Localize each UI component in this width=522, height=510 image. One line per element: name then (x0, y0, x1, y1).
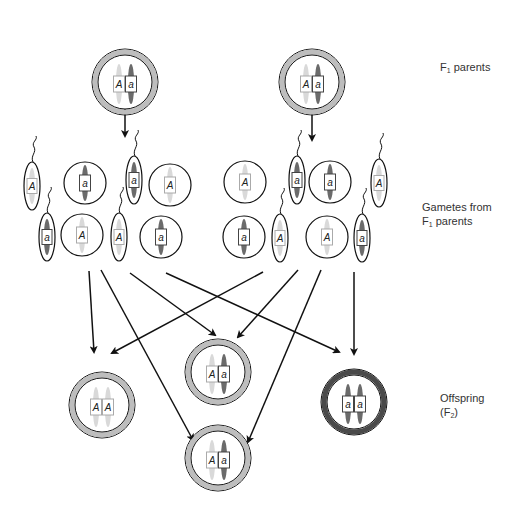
egg-cell: A (61, 214, 103, 256)
label-text: F (440, 61, 447, 73)
sperm-cell: A (272, 188, 288, 262)
allele-label: a (357, 399, 363, 410)
label-text: ) (454, 406, 458, 418)
allele-label: A (323, 232, 331, 243)
allele-label: a (359, 233, 365, 244)
label-line: Offspring (440, 391, 484, 405)
allele-label: a (221, 369, 227, 380)
offspring-AA: AA (69, 372, 135, 438)
allele-label: A (115, 79, 123, 90)
label-line: Gametes from (422, 200, 492, 214)
arrow (89, 271, 94, 352)
allele-label: A (78, 230, 86, 241)
offspring-Aa-bottom: Aa (185, 425, 251, 491)
sperm-tail (362, 188, 366, 214)
sperm-cell: a (354, 188, 370, 262)
sperm-tail (119, 187, 123, 213)
sperm-cell: a (126, 130, 142, 204)
allele-label: a (158, 232, 164, 243)
allele-label: A (92, 402, 100, 413)
gametes: AaaAaAAaAaaAaAAa (24, 130, 387, 262)
label-text: (F (440, 406, 450, 418)
allele-label: A (166, 180, 174, 191)
sperm-cell: A (111, 187, 127, 261)
egg-cell: a (223, 216, 265, 258)
egg-cell: a (64, 162, 106, 204)
allele-label: a (221, 455, 227, 466)
allele-label: a (315, 79, 321, 90)
allele-label: a (128, 79, 134, 90)
label-text: F (422, 215, 429, 227)
f1-parents: AaAa (92, 49, 345, 115)
sperm-cell: a (39, 187, 55, 261)
gametes-label: Gametes from F1 parents (422, 200, 492, 232)
allele-label: a (345, 399, 351, 410)
sperm-tail (134, 130, 138, 156)
allele-label: a (44, 232, 50, 243)
allele-label: A (302, 79, 310, 90)
allele-label: A (28, 181, 36, 192)
egg-cell: a (309, 161, 351, 203)
egg-cell: A (149, 164, 191, 206)
label-text: parents (433, 215, 473, 227)
label-text: parents (451, 61, 491, 73)
egg-cell: A (224, 161, 266, 203)
allele-label: A (208, 369, 216, 380)
egg-cell: a (140, 216, 182, 258)
f1-parents-label: F1 parents (440, 60, 490, 78)
parent-right: Aa (279, 49, 345, 115)
sperm-tail (280, 188, 284, 214)
allele-label: a (327, 177, 333, 188)
allele-label: A (276, 233, 284, 244)
arrow (166, 273, 339, 352)
egg-cell: A (306, 216, 348, 258)
offspring-label: Offspring (F2) (440, 391, 484, 423)
allele-label: A (375, 178, 383, 189)
offspring-Aa-top: Aa (185, 339, 251, 405)
label-line: F1 parents (422, 214, 492, 232)
sperm-tail (47, 187, 51, 213)
sperm-tail (32, 136, 36, 162)
sperm-cell: a (289, 130, 305, 204)
sperm-cell: A (24, 136, 40, 210)
arrow (112, 272, 263, 353)
allele-label: a (294, 175, 300, 186)
offspring-aa: aa (321, 369, 387, 435)
sperm-cell: A (371, 133, 387, 207)
label-line: (F2) (440, 405, 484, 423)
allele-label: A (208, 455, 216, 466)
parent-left: Aa (92, 49, 158, 115)
allele-label: A (241, 177, 249, 188)
f2-offspring: AAAaaaAa (69, 339, 387, 491)
sperm-tail (379, 133, 383, 159)
allele-label: A (115, 232, 123, 243)
sperm-tail (297, 130, 301, 156)
arrow (248, 270, 321, 442)
allele-label: A (104, 402, 112, 413)
allele-label: a (131, 175, 137, 186)
allele-label: a (241, 232, 247, 243)
allele-label: a (82, 178, 88, 189)
